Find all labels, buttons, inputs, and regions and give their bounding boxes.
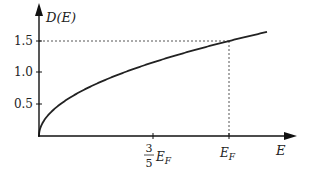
x-axis-arrow-icon: [284, 132, 297, 140]
xtick-frac-denominator: 5: [146, 157, 153, 170]
dos-curve: [39, 32, 267, 136]
ytick-label-0.5: 0.5: [14, 97, 33, 111]
density-of-states-chart: 1.5 1.0 0.5 D(E) 3 5 EF EF E: [0, 0, 310, 177]
xtick-label-ef: EF: [219, 146, 236, 162]
x-axis-label: E: [275, 143, 286, 158]
xtick-frac-numerator: 3: [146, 142, 153, 155]
ytick-label-1.0: 1.0: [14, 65, 33, 79]
xtick-frac-ef: EF: [155, 150, 172, 166]
y-axis-arrow-icon: [35, 3, 43, 16]
ytick-label-1.5: 1.5: [14, 34, 33, 48]
y-axis-label: D(E): [45, 10, 76, 25]
